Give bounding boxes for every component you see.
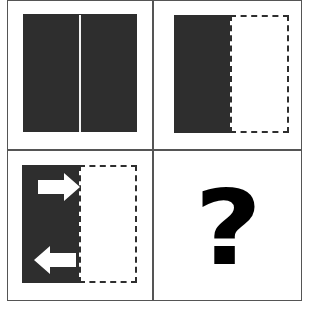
panel-2-dark-half <box>174 15 232 133</box>
panel-2-dashed-half <box>230 15 289 133</box>
arrow-left-icon <box>32 245 78 275</box>
panel-4: ? <box>153 150 302 301</box>
question-mark-icon: ? <box>195 176 263 280</box>
panel-1-center-split-line <box>79 15 81 132</box>
panel-3-dashed-half <box>79 165 137 283</box>
arrow-right-icon <box>36 172 82 202</box>
